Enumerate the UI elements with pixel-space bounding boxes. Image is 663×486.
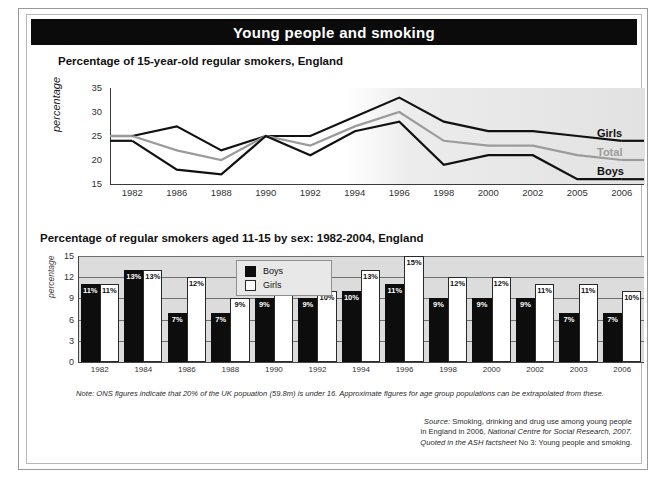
line-x-tick-1992: 1992 (290, 187, 330, 198)
bar-value-label: 11% (101, 287, 118, 295)
bar-value-label: 15% (405, 259, 422, 267)
bar-value-label: 9% (517, 301, 534, 309)
line-x-tick-1996: 1996 (379, 187, 419, 198)
line-legend-total: Total (597, 146, 622, 158)
line-y-tick-20: 20 (76, 154, 102, 165)
bar-chart-legend: Boys Girls (236, 260, 332, 296)
bar-boys-1986[interactable]: 7% (168, 313, 187, 362)
legend-swatch-girls-icon (245, 280, 256, 291)
bar-group-2002: 9%11% (513, 256, 557, 362)
bar-girls-1988[interactable]: 9% (230, 298, 249, 362)
line-x-tick-1990: 1990 (246, 187, 286, 198)
bar-girls-2006[interactable]: 10% (622, 291, 641, 362)
bar-boys-1996[interactable]: 11% (385, 284, 404, 362)
bar-value-label: 12% (188, 280, 205, 288)
line-chart: percentage 1520253035 198219861988199019… (54, 84, 644, 208)
bar-value-label: 11% (386, 287, 403, 295)
legend-row-girls: Girls (245, 280, 331, 291)
legend-label-girls: Girls (263, 280, 282, 290)
bar-group-1998: 9%12% (426, 256, 470, 362)
bar-girls-1998[interactable]: 12% (448, 277, 467, 362)
bar-boys-2000[interactable]: 9% (472, 298, 491, 362)
bar-chart-groups: 11%11%13%13%7%12%7%9%9%11%9%10%10%13%11%… (78, 256, 644, 362)
bar-value-label: 11% (536, 287, 553, 295)
bar-y-tick-0: 0 (52, 357, 74, 367)
bar-value-label: 7% (560, 316, 577, 324)
line-x-tick-2000: 2000 (468, 187, 508, 198)
bar-x-tick-2006: 2006 (594, 365, 650, 374)
bar-boys-1998[interactable]: 9% (429, 298, 448, 362)
bar-chart-title: Percentage of regular smokers aged 11-15… (40, 232, 424, 244)
bar-group-2000: 9%12% (470, 256, 514, 362)
bar-value-label: 9% (299, 301, 316, 309)
line-legend-boys: Boys (597, 165, 624, 177)
bar-value-label: 10% (343, 294, 360, 302)
line-y-tick-35: 35 (76, 82, 102, 93)
line-chart-series-svg (110, 88, 644, 185)
line-chart-y-axis-label: percentage (50, 77, 62, 132)
source-line-1: Source: Smoking, drinking and drug use a… (300, 417, 632, 427)
bar-value-label: 7% (604, 316, 621, 324)
line-y-tick-30: 30 (76, 106, 102, 117)
page-title: Young people and smoking (233, 24, 435, 41)
bar-girls-1982[interactable]: 11% (100, 284, 119, 362)
bar-value-label: 9% (231, 301, 248, 309)
bar-girls-2000[interactable]: 12% (492, 277, 511, 362)
bar-boys-2003[interactable]: 7% (559, 313, 578, 362)
bar-boys-1990[interactable]: 9% (255, 298, 274, 362)
bar-value-label: 7% (169, 316, 186, 324)
bar-boys-2006[interactable]: 7% (603, 313, 622, 362)
line-chart-title: Percentage of 15-year-old regular smoker… (58, 55, 343, 67)
line-x-tick-1998: 1998 (424, 187, 464, 198)
bar-chart-x-axis (78, 362, 644, 363)
line-series-total (132, 112, 622, 160)
line-legend-girls: Girls (597, 127, 622, 139)
bar-chart: percentage 11%11%13%13%7%12%7%9%9%11%9%1… (40, 252, 644, 380)
bar-value-label: 13% (362, 273, 379, 281)
line-y-tick-15: 15 (76, 178, 102, 189)
line-x-tick-1988: 1988 (201, 187, 241, 198)
bar-girls-2002[interactable]: 11% (535, 284, 554, 362)
bar-value-label: 9% (256, 301, 273, 309)
infographic-page: Young people and smoking Percentage of 1… (0, 0, 663, 486)
legend-label-boys: Boys (263, 266, 283, 276)
source-line-2: in England in 2006, National Centre for … (300, 427, 632, 437)
footnote: Note: ONS figures indicate that 20% of t… (50, 389, 630, 398)
bar-y-tick-3: 3 (52, 336, 74, 346)
bar-girls-1996[interactable]: 15% (404, 256, 423, 362)
header-banner: Young people and smoking (31, 19, 637, 45)
bar-girls-1984[interactable]: 13% (143, 270, 162, 362)
bar-value-label: 12% (493, 280, 510, 288)
bar-boys-1982[interactable]: 11% (81, 284, 100, 362)
line-x-tick-2006: 2006 (602, 187, 642, 198)
bar-group-2006: 7%10% (600, 256, 644, 362)
bar-value-label: 11% (580, 287, 597, 295)
line-x-tick-1994: 1994 (335, 187, 375, 198)
bar-value-label: 9% (430, 301, 447, 309)
bar-girls-1994[interactable]: 13% (361, 270, 380, 362)
bar-girls-2003[interactable]: 11% (579, 284, 598, 362)
bar-girls-1986[interactable]: 12% (187, 277, 206, 362)
source-block: Source: Smoking, drinking and drug use a… (300, 417, 632, 448)
source-label: Source: (424, 417, 450, 426)
bar-y-tick-9: 9 (52, 293, 74, 303)
source-text-3a: Quoted in the ASH factsheet (420, 438, 516, 447)
bar-value-label: 10% (623, 294, 640, 302)
bar-boys-1994[interactable]: 10% (342, 291, 361, 362)
source-text-1: Smoking, drinking and drug use among you… (452, 417, 632, 426)
bar-group-1982: 11%11% (78, 256, 122, 362)
legend-swatch-boys-icon (245, 266, 256, 277)
bar-boys-1988[interactable]: 7% (211, 313, 230, 362)
bar-boys-2002[interactable]: 9% (516, 298, 535, 362)
source-text-2a: in England in 2006, (420, 427, 485, 436)
source-line-3: Quoted in the ASH factsheet No 3: Young … (300, 438, 632, 448)
bar-value-label: 11% (82, 287, 99, 295)
bar-boys-1992[interactable]: 9% (298, 298, 317, 362)
bar-girls-1992[interactable]: 10% (317, 291, 336, 362)
bar-group-1986: 7%12% (165, 256, 209, 362)
line-x-tick-1986: 1986 (157, 187, 197, 198)
line-series-girls (132, 98, 622, 151)
bar-group-2003: 7%11% (557, 256, 601, 362)
line-x-tick-1982: 1982 (112, 187, 152, 198)
bar-boys-1984[interactable]: 13% (124, 270, 143, 362)
